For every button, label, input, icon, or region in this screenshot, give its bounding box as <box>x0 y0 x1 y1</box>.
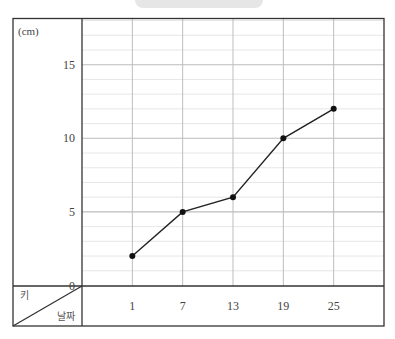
y-unit-label: (cm) <box>18 25 39 38</box>
x-tick-label: 13 <box>227 299 239 313</box>
line-chart: (cm) 키 날짜 051015 17131925 <box>0 0 395 339</box>
data-point <box>180 209 186 215</box>
y-tick-label: 10 <box>63 131 75 145</box>
y-tick-labels: 051015 <box>63 58 75 293</box>
y-header-label: 키 <box>20 290 29 301</box>
data-point <box>280 135 286 141</box>
x-tick-label: 19 <box>277 299 289 313</box>
x-tick-label: 1 <box>129 299 135 313</box>
y-tick-label: 0 <box>69 279 75 293</box>
y-tick-label: 5 <box>69 205 75 219</box>
x-tick-labels: 17131925 <box>129 299 339 313</box>
x-header-label: 날짜 <box>57 311 75 322</box>
x-tick-label: 25 <box>328 299 340 313</box>
data-point <box>331 106 337 112</box>
data-point <box>129 253 135 259</box>
y-tick-label: 15 <box>63 58 75 72</box>
data-point <box>230 194 236 200</box>
grid <box>82 19 384 287</box>
x-tick-label: 7 <box>180 299 186 313</box>
